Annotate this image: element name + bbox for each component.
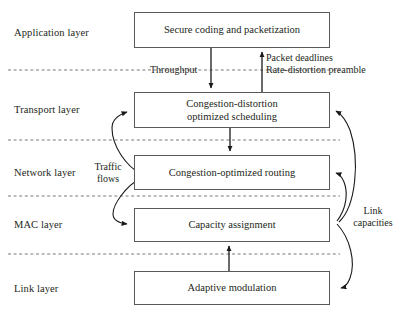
annotation-traffic-flows: Traffic flows [86,161,130,185]
arrow-capacity-to-link [337,224,352,288]
transport-box-label-line1: Congestion-distortion [186,97,278,110]
layer-label-network: Network layer [14,167,76,178]
layer-label-mac: MAC layer [14,219,62,230]
application-box[interactable]: Secure coding and packetization [134,12,330,48]
transport-box-label-line2: optimized scheduling [187,110,277,123]
annotation-capacities: capacities [345,217,401,229]
annotation-rate-distortion-preamble: Rate-distortion preamble [266,64,366,76]
transport-box[interactable]: Congestion-distortion optimized scheduli… [134,92,330,128]
application-box-label: Secure coding and packetization [164,23,300,36]
mac-box[interactable]: Capacity assignment [134,208,330,242]
annotation-link-capacities: Link capacities [345,205,401,229]
layer-label-transport: Transport layer [14,104,80,115]
layer-label-link: Link layer [14,283,58,294]
mac-box-label: Capacity assignment [188,218,275,231]
annotation-throughput: Throughput [150,64,197,76]
annotation-traffic: Traffic [86,161,130,173]
annotation-packet-deadlines: Packet deadlines [266,52,366,64]
annotation-link: Link [345,205,401,217]
link-box-label: Adaptive modulation [188,281,277,294]
link-capacity-arrows [336,111,355,288]
annotation-flows: flows [86,173,130,185]
link-box[interactable]: Adaptive modulation [134,271,330,305]
network-box[interactable]: Congestion-optimized routing [134,155,330,190]
annotation-packet-feedback: Packet deadlines Rate-distortion preambl… [266,52,366,76]
layer-label-application: Application layer [14,27,89,38]
network-box-label: Congestion-optimized routing [169,166,295,179]
